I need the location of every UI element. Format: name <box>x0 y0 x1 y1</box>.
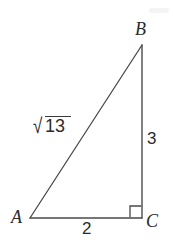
radicand-value: 13 <box>45 117 65 136</box>
right-triangle-figure: A B C √ 13 3 2 <box>0 0 173 246</box>
radical-sign-icon: √ <box>33 115 42 136</box>
vertex-label-a: A <box>11 208 22 226</box>
radicand-group: 13 <box>45 115 65 136</box>
side-label-leg-ac: 2 <box>82 220 91 237</box>
right-angle-marker-icon <box>130 206 141 217</box>
side-label-leg-bc: 3 <box>147 130 156 147</box>
scan-artifact <box>149 8 169 13</box>
side-label-hypotenuse-ab: √ 13 <box>33 115 65 136</box>
vertex-label-b: B <box>135 20 146 38</box>
vertex-label-c: C <box>146 212 158 230</box>
radical-overbar <box>45 116 71 117</box>
triangle-drawing <box>0 0 173 246</box>
